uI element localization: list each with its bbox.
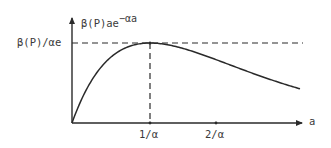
chart-canvas <box>0 0 331 148</box>
x-axis-label: a <box>309 115 315 127</box>
y-axis-label: β(P)ae−αa <box>81 17 137 29</box>
x-tick-label-2: 2/α <box>205 128 224 140</box>
y-axis-label-exponent: −αa <box>119 13 137 24</box>
curve-line <box>72 43 300 123</box>
tick-1-alpha <box>149 122 152 125</box>
y-axis-label-base: β(P)ae <box>81 17 119 29</box>
tick-2-alpha <box>215 122 218 125</box>
x-tick-label-1: 1/α <box>139 128 158 140</box>
y-max-label: β(P)/αe <box>17 36 61 48</box>
